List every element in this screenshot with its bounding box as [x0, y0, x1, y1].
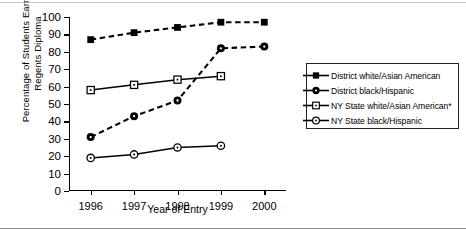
y-tick-mark [64, 191, 69, 192]
data-point-marker-open-circle [313, 117, 320, 124]
data-point-marker-open-square [87, 86, 94, 93]
series-line [91, 76, 221, 90]
data-point-marker-filled-square [261, 19, 268, 26]
data-point-marker-open-circle [87, 154, 94, 161]
series-1 [87, 43, 269, 141]
y-tick-label: 20 [48, 150, 61, 162]
legend-marker-filled-circle-icon [301, 83, 331, 98]
legend-item-3[interactable]: NY State black/Hispanic [307, 113, 458, 128]
y-tick-label: 0 [55, 185, 61, 197]
data-point-marker-open-square [217, 73, 224, 80]
x-axis-title: Year of Entry [69, 203, 286, 215]
data-point-marker-filled-circle [312, 87, 319, 94]
data-point-marker-open-square [313, 102, 320, 109]
data-point-marker-filled-square [313, 72, 319, 78]
top-divider [0, 2, 466, 3]
y-tick-label: 100 [42, 11, 61, 23]
series-2 [87, 73, 224, 94]
data-point-marker-filled-square [218, 19, 225, 26]
series-line [91, 47, 265, 137]
y-tick-label: 50 [48, 98, 61, 110]
series-line [91, 146, 221, 158]
legend-item-2[interactable]: NY State white/Asian American* [307, 98, 458, 113]
data-point-marker-open-square [131, 81, 138, 88]
y-axis-title: Percentage of Students Earning Regents D… [20, 0, 43, 142]
data-point-marker-filled-square [87, 36, 94, 43]
data-point-marker-filled-square [131, 29, 138, 36]
legend-marker-open-circle-icon [301, 113, 331, 128]
data-point-marker-filled-circle [174, 97, 182, 105]
legend-marker-filled-square-icon [301, 68, 331, 83]
y-tick-label: 70 [48, 63, 61, 75]
legend-label: District white/Asian American [331, 71, 440, 81]
plot-area: 0102030405060708090100 19961997199819992… [69, 17, 286, 191]
legend-label: District black/Hispanic [331, 86, 414, 96]
y-tick-label: 40 [48, 115, 61, 127]
series-0 [87, 19, 267, 43]
y-tick-label: 90 [48, 28, 61, 40]
chart-legend: District white/Asian AmericanDistrict bl… [306, 63, 459, 129]
y-tick-label: 80 [48, 46, 61, 58]
data-point-marker-open-circle [130, 151, 137, 158]
y-axis-title-line-1: Percentage of Students Earning [20, 0, 32, 142]
data-point-marker-filled-circle [260, 43, 268, 51]
data-series-layer [69, 17, 286, 191]
legend-label: NY State black/Hispanic [331, 116, 422, 126]
data-point-marker-filled-square [174, 24, 181, 31]
y-tick-label: 10 [48, 168, 61, 180]
data-point-marker-filled-circle [87, 133, 95, 141]
data-point-marker-open-circle [217, 142, 224, 149]
legend-label: NY State white/Asian American* [331, 101, 452, 111]
data-point-marker-open-square [174, 76, 181, 83]
figure-root: Percentage of Students Earning Regents D… [0, 0, 466, 248]
legend-marker-open-square-icon [301, 98, 331, 113]
data-point-marker-open-circle [174, 144, 181, 151]
legend-item-1[interactable]: District black/Hispanic [307, 83, 458, 98]
y-tick-label: 30 [48, 133, 61, 145]
y-axis-title-line-2: Regents Diploma [31, 0, 43, 142]
y-tick-label: 60 [48, 81, 61, 93]
data-point-marker-filled-circle [130, 112, 138, 120]
bottom-divider [0, 228, 466, 229]
legend-item-0[interactable]: District white/Asian American [307, 68, 458, 83]
data-point-marker-filled-circle [217, 44, 225, 52]
series-3 [87, 142, 225, 162]
